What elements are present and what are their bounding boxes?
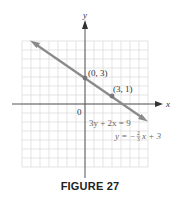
equation-standard-form: 3y + 2x = 9 xyxy=(89,118,131,128)
point-0-3-label: (0, 3) xyxy=(88,68,108,78)
equation-slope-intercept: y = − xyxy=(114,131,136,141)
y-axis-label: y xyxy=(82,10,87,20)
figure-caption: FIGURE 27 xyxy=(0,180,180,192)
point-3-1 xyxy=(110,94,115,99)
equation-slope-suffix: x + 3 xyxy=(141,131,162,141)
x-axis-label: x xyxy=(165,99,170,109)
point-3-1-label: (3, 1) xyxy=(113,84,133,94)
point-0-3 xyxy=(83,76,88,81)
slope-fraction-denominator: 3 xyxy=(137,136,140,142)
graph-line xyxy=(36,45,142,118)
x-axis-arrow-icon xyxy=(155,101,163,107)
origin-label: 0 xyxy=(77,107,82,117)
coordinate-graph: x y 0 (0, 3) (3, 1) 3y + 2x = 9 y = − 2 … xyxy=(0,0,180,198)
y-axis-arrow-icon xyxy=(82,20,88,29)
